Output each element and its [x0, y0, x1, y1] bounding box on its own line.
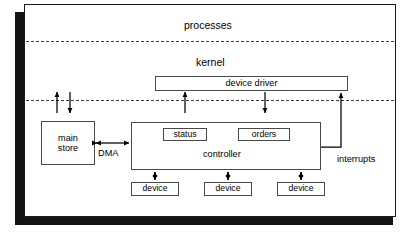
arrow-interrupts: [321, 93, 341, 147]
diagram-canvas: processes kernel device driver main stor…: [0, 0, 410, 233]
arrow-layer: [0, 0, 410, 233]
